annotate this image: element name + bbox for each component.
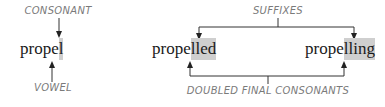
word-propel: propel (20, 39, 63, 59)
word-propelling-stem: prope (305, 39, 344, 58)
word-propelled: propelled (152, 39, 216, 59)
suffixes-bracket (196, 18, 357, 40)
doubled-consonants-bracket (187, 61, 347, 84)
word-propelled-stem: prope (152, 39, 191, 58)
word-propel-stem: prope (20, 39, 59, 58)
doubled-final-consonants-label: DOUBLED FINAL CONSONANTS (187, 85, 349, 96)
word-propelled-suffix: lled (191, 38, 217, 60)
vowel-arrow (49, 61, 55, 82)
suffixes-label: SUFFIXES (253, 5, 303, 16)
consonant-label: CONSONANT (24, 5, 91, 16)
vowel-label: VOWEL (34, 82, 72, 93)
word-propelling-suffix: lling (344, 38, 375, 60)
word-propel-final-consonant: l (59, 38, 64, 60)
consonant-arrow (56, 18, 62, 38)
word-propelling: propelling (305, 39, 375, 59)
